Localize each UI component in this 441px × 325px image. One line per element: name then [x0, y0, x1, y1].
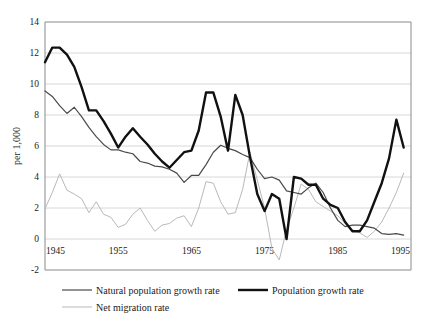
y-axis-title: per 1,000: [11, 127, 22, 165]
chart-container: -202468101214 194519551965197519851995 p…: [0, 0, 441, 325]
y-tick-label-10: 10: [30, 79, 40, 89]
y-tick-label-8: 8: [34, 110, 39, 120]
x-tick-label-1965: 1965: [182, 246, 201, 256]
y-tick-label-4: 4: [34, 172, 39, 182]
chart-background: [0, 0, 441, 325]
x-tick-label-1945: 1945: [46, 246, 65, 256]
y-tick-label-6: 6: [34, 141, 39, 151]
x-tick-label-1995: 1995: [391, 246, 410, 256]
x-tick-label-1955: 1955: [109, 246, 128, 256]
y-tick-label-0: 0: [34, 234, 39, 244]
y-tick-label-12: 12: [30, 48, 40, 58]
x-tick-label-1985: 1985: [328, 246, 347, 256]
legend-label: Natural population growth rate: [96, 285, 220, 296]
y-tick-label-neg2: -2: [31, 265, 39, 275]
legend-label: Net migration rate: [96, 302, 170, 313]
line-chart: -202468101214 194519551965197519851995 p…: [0, 0, 441, 325]
y-tick-label-2: 2: [34, 203, 39, 213]
y-tick-label-14: 14: [30, 17, 40, 27]
legend-label: Population growth rate: [272, 285, 364, 296]
